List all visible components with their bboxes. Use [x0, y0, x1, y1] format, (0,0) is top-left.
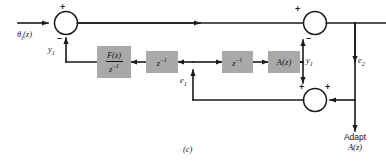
e2-label: e2 — [358, 56, 365, 67]
block-z-inverse-left-label: z–1 — [157, 56, 167, 68]
block-a-of-z: A(z) — [268, 51, 300, 73]
top-right-summer-circle — [304, 12, 327, 35]
figure-caption: (c) — [183, 144, 192, 154]
block-f-over-z: F(z) z–1 — [97, 46, 131, 78]
left-summer-circle — [55, 12, 78, 35]
y1-left-label: y1 — [48, 45, 55, 56]
input-signal-label: θi(z) — [17, 30, 32, 41]
block-z-inverse-left: z–1 — [146, 51, 178, 73]
block-f-numerator: F(z) — [106, 51, 122, 60]
left-summer-plus-sign: + — [60, 3, 65, 12]
top-right-summer-plus-sign: + — [295, 5, 300, 14]
bottom-right-summer-circle — [304, 89, 327, 112]
adapt-annotation: Adapt A(z) — [332, 133, 378, 153]
top-right-summer-minus-sign: – — [306, 34, 311, 43]
bottom-right-summer-plus-right-sign: + — [325, 83, 330, 92]
figure-canvas: F(z) z–1 z–1 z–1 A(z) + – + – + + θi(z) … — [0, 0, 386, 163]
block-a-of-z-label: A(z) — [277, 57, 292, 67]
block-z-inverse-right: z–1 — [222, 51, 253, 73]
bottom-right-summer-plus-top-sign: + — [299, 83, 304, 92]
block-z-inverse-right-label: z–1 — [232, 56, 242, 68]
left-summer-minus-sign: – — [57, 34, 62, 43]
e1-label: e1 — [180, 76, 187, 87]
y1-right-label: y1 — [306, 56, 313, 67]
adapt-label-line2: A(z) — [332, 143, 378, 153]
block-f-denominator: z–1 — [108, 63, 120, 74]
